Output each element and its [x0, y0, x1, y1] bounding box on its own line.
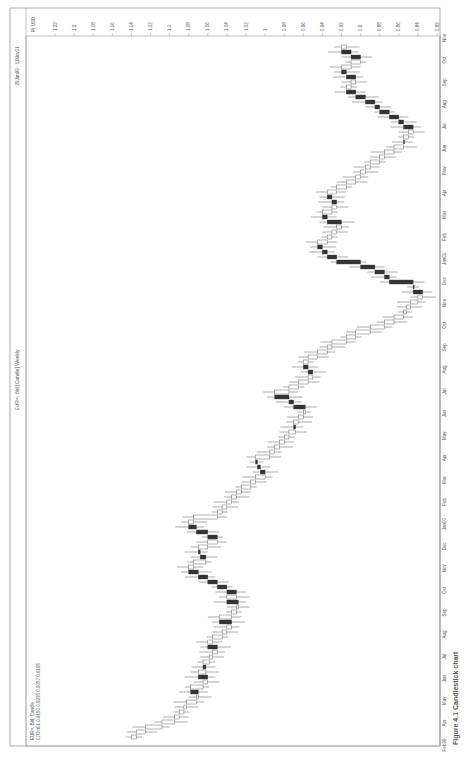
time-tick-label: Jul	[442, 654, 447, 660]
candle	[173, 710, 189, 714]
candle	[341, 85, 357, 89]
candle	[320, 220, 355, 224]
candle-body-down	[222, 630, 227, 634]
candle-body-up	[294, 405, 305, 409]
candle-body-up	[203, 665, 206, 669]
candle	[278, 435, 294, 439]
candle	[333, 75, 364, 79]
candle-body-down	[189, 520, 194, 524]
time-tick-label: May	[442, 696, 447, 705]
candle-body-up	[342, 70, 347, 74]
time-tick-label: Oct	[442, 56, 447, 64]
candle	[357, 325, 392, 329]
candle-body-down	[356, 175, 361, 179]
candle	[371, 275, 397, 279]
candle-body-down	[346, 335, 356, 339]
price-tick-label: 1.04	[224, 22, 229, 31]
time-tick-label: Feb	[442, 232, 447, 240]
candle-body-up	[208, 535, 218, 539]
price-tick-label: 1.02	[244, 22, 249, 31]
candle-body-up	[375, 105, 380, 109]
candle-body-down	[294, 420, 299, 424]
candle	[378, 115, 409, 119]
candle-body-down	[236, 490, 241, 494]
candle-body-up	[318, 245, 323, 249]
candle	[276, 400, 302, 404]
candle	[397, 300, 426, 304]
candle	[342, 80, 368, 84]
candle	[322, 230, 348, 234]
candle	[193, 680, 219, 684]
price-tick-label: 0.96	[301, 22, 306, 31]
candle	[225, 490, 251, 494]
candle	[318, 255, 349, 259]
candle	[187, 530, 219, 534]
time-tick-label: Jun	[442, 675, 447, 683]
candle	[267, 445, 293, 449]
candle-body-down	[318, 240, 328, 244]
candle	[397, 305, 422, 309]
candle-body-down	[198, 545, 208, 549]
candle-body-down	[275, 390, 289, 394]
candle	[309, 250, 335, 254]
price-tick-label: 0.92	[339, 22, 344, 31]
candle	[127, 730, 158, 734]
candle	[200, 655, 224, 659]
candle	[235, 485, 256, 489]
candle	[286, 420, 312, 424]
candle-body-down	[370, 160, 380, 164]
plot-area	[26, 36, 440, 746]
candle	[371, 150, 402, 154]
candle	[224, 495, 250, 499]
candle	[132, 725, 169, 729]
candle-body-down	[356, 330, 370, 334]
time-tick-label: Jul	[442, 389, 447, 395]
candle	[214, 600, 246, 604]
candle	[185, 550, 208, 554]
time-tick-label: Dec	[442, 276, 447, 285]
figure-caption: Figure 4.1 Candlestick chart	[452, 651, 460, 745]
candle-body-down	[203, 660, 210, 664]
candle	[380, 280, 425, 284]
candle-body-down	[193, 560, 205, 564]
candle-body-up	[384, 275, 389, 279]
candle-body-down	[227, 625, 232, 629]
candle-body-down	[303, 410, 305, 414]
legend-last-values: 07Oct01 0.9150 0.9235 0.9057 0.9195	[36, 662, 41, 740]
price-tick-label: 1.14	[129, 22, 134, 31]
candle-body-down	[146, 725, 162, 729]
candle-body-down	[332, 230, 337, 234]
price-tick-label: 0.88	[377, 22, 382, 31]
candle-body-down	[279, 440, 284, 444]
candle	[214, 625, 240, 629]
price-tick-label: 1.2	[72, 24, 77, 31]
price-tick-label: 0.82	[435, 22, 440, 31]
candle	[253, 470, 279, 474]
time-tick-label: Oct	[442, 321, 447, 329]
candle-body-down	[131, 735, 136, 739]
price-tick-label: 0.86	[396, 22, 401, 31]
time-tick-label: Oct	[442, 586, 447, 594]
candle-body-down	[370, 325, 384, 329]
candle-body-up	[227, 590, 237, 594]
candle-body-up	[327, 255, 337, 259]
candle-body-down	[299, 415, 304, 419]
candle-body-up	[356, 95, 366, 99]
candle-body-down	[303, 360, 308, 364]
time-tick-label: Jun	[442, 144, 447, 152]
candle-body-down	[179, 710, 184, 714]
candle-body-down	[284, 435, 289, 439]
candle	[181, 570, 212, 574]
candle-body-down	[342, 45, 347, 49]
candle-body-down	[256, 475, 266, 479]
candle-body-up	[404, 140, 405, 144]
candle-body-up	[327, 220, 341, 224]
candle-body-down	[198, 670, 206, 674]
candle-body-down	[189, 565, 194, 569]
candle-body-up	[342, 50, 352, 54]
price-unit-label: Pr USD	[31, 16, 36, 32]
candle	[188, 560, 212, 564]
candle	[402, 290, 433, 294]
candle	[212, 585, 233, 589]
candle-body-up	[217, 585, 227, 589]
